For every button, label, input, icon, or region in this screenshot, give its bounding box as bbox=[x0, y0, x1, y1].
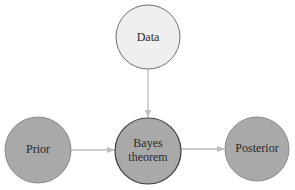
node-bayes-label-line2: theorem bbox=[128, 150, 168, 164]
node-bayes-theorem: Bayes theorem bbox=[115, 118, 181, 184]
bayes-diagram: Data Bayes theorem Prior Posterior bbox=[0, 0, 295, 190]
node-data-label: Data bbox=[137, 30, 160, 44]
node-prior: Prior bbox=[5, 117, 71, 183]
node-bayes-label-line1: Bayes bbox=[133, 136, 163, 150]
node-prior-label: Prior bbox=[26, 142, 50, 156]
node-posterior-label: Posterior bbox=[235, 141, 278, 155]
node-posterior: Posterior bbox=[225, 117, 289, 181]
node-data: Data bbox=[116, 5, 180, 69]
